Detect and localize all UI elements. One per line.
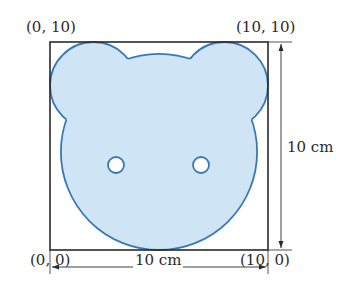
corner-label-top-left: (0, 10) xyxy=(26,20,76,35)
vertical-dimension-label: 10 cm xyxy=(286,139,334,156)
corner-label-top-right: (10, 10) xyxy=(236,20,295,35)
corner-label-bottom-right: (10, 0) xyxy=(240,253,290,268)
corner-label-bottom-left: (0, 0) xyxy=(30,253,70,268)
left-eye xyxy=(108,157,124,173)
right-eye xyxy=(193,157,209,173)
bear-diagram: (0, 10) (10, 10) (0, 0) (10, 0) 10 cm 10… xyxy=(0,0,353,305)
bear-face xyxy=(50,42,268,250)
horizontal-dimension-label: 10 cm xyxy=(133,253,183,268)
